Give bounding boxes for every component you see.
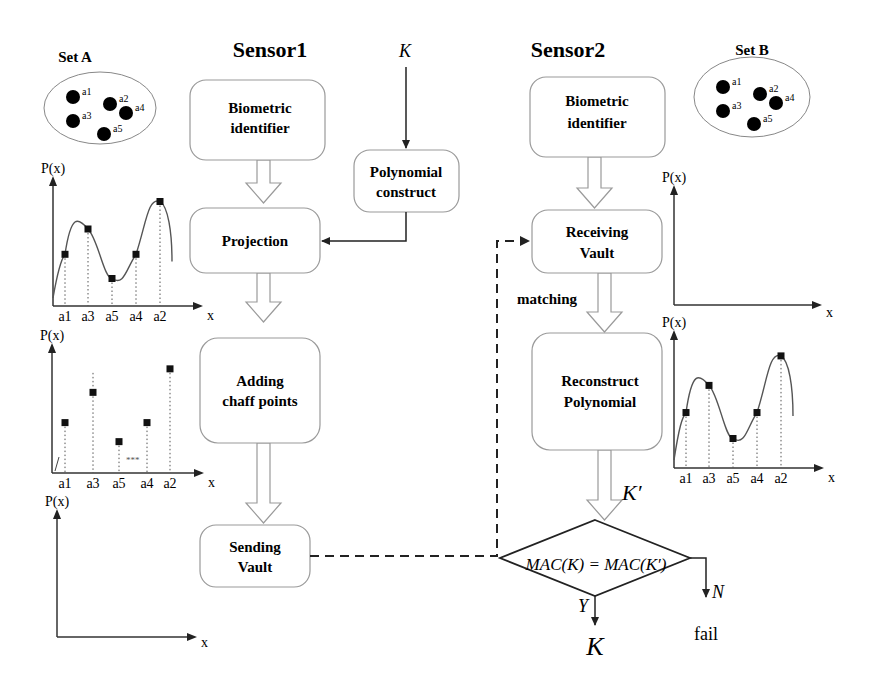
plot-a-vault-tick-label: a2 (163, 476, 176, 491)
box-label-line: identifier (230, 120, 289, 136)
set-a-element-label: a3 (82, 110, 91, 121)
set-b-element-dot (716, 104, 730, 118)
plot-a-polynomial-x-arrowhead (193, 302, 203, 310)
set-a-element-label: a1 (82, 86, 91, 97)
plot-a-vault-tick-label: a1 (58, 476, 71, 491)
box-label-line: Polynomial (370, 164, 443, 180)
biometric-identifier-box-2[interactable]: Biometric identifier (530, 77, 665, 157)
set-b-ellipse: a1a2a3a4a5 (694, 57, 810, 137)
plot-b-polynomial-tick-label: a5 (726, 471, 739, 486)
set-b-element-label: a1 (732, 76, 741, 87)
set-a-element-label: a5 (113, 123, 122, 134)
flow-arrow-2 (246, 273, 281, 322)
box-label-line: Adding (236, 373, 284, 389)
matching-label: matching (517, 291, 578, 307)
set-a-element-dot (66, 90, 80, 104)
set-b-element-dot (747, 117, 761, 131)
plot-b-polynomial-tick-label: a2 (774, 471, 787, 486)
plot-a-polynomial-data-point (85, 226, 92, 233)
set-b-title: Set B (735, 42, 769, 58)
receiving-vault-box[interactable]: Receiving Vault (532, 210, 662, 273)
set-b-element-dot (716, 80, 730, 94)
plot-a-empty-y-arrowhead (53, 509, 61, 519)
plots-group: P(x)xa1a3a5a4a2P(x)xa1a3a5a4a2P(x)x***a1… (40, 161, 835, 650)
plot-b-polynomial-data-point (754, 409, 761, 416)
plot-b-polynomial-data-point (778, 352, 785, 359)
plot-a-vault-chaff-marker: *** (126, 455, 140, 465)
no-branch-arrow (690, 558, 706, 597)
set-b-element-label: a5 (763, 113, 772, 124)
biometric-identifier-box-1[interactable]: Biometric identifier (190, 80, 325, 160)
plot-a-polynomial-data-point (157, 198, 164, 205)
box-label-line: Sending (229, 539, 281, 555)
plot-b-polynomial-y-arrowhead (670, 330, 678, 340)
plot-b-polynomial-x-arrowhead (814, 464, 824, 472)
mac-condition-text: MAC(K) = MAC(K′) (525, 555, 667, 574)
sensor2-title: Sensor2 (531, 37, 606, 62)
set-a-element-dot (66, 114, 80, 128)
plot-b-polynomial-tick-label: a3 (702, 471, 715, 486)
plot-a-vault-x-label: x (208, 475, 215, 490)
plot-b-polynomial-tick-label: a4 (750, 471, 763, 486)
plot-a-vault-tick-label: a5 (112, 476, 125, 491)
box-label-line: Reconstruct (561, 373, 638, 389)
yes-label: Y (578, 596, 590, 616)
set-a-element-dot (97, 127, 111, 141)
plot-b-empty-x-label: x (826, 305, 833, 320)
k-prime-label: K′ (621, 480, 643, 505)
flow-arrow-5 (587, 273, 622, 332)
fail-output: fail (694, 624, 718, 644)
plot-b-polynomial-tick-label: a1 (679, 471, 692, 486)
plot-b-polynomial-x-label: x (828, 470, 835, 485)
plot-a-vault-y-label: P(x) (40, 328, 64, 344)
set-b-element-dot (753, 87, 767, 101)
plot-a-polynomial-tick-label: a1 (58, 309, 71, 324)
vault-transfer-link (310, 241, 520, 556)
box-label-line: Vault (580, 245, 614, 261)
plot-a-polynomial-y-label: P(x) (41, 161, 65, 177)
projection-box[interactable]: Projection (190, 208, 320, 273)
set-b-element-dot (769, 96, 783, 110)
plot-a-empty-y-label: P(x) (45, 494, 69, 510)
flow-arrow-4 (577, 157, 612, 208)
box-label-line: Vault (238, 559, 272, 575)
plot-a-vault-vault-point (167, 365, 174, 372)
plot-b-empty-x-arrowhead (812, 301, 822, 309)
box-label-line: Polynomial (564, 394, 637, 410)
fuzzy-vault-diagram: Set A Sensor1 Sensor2 Set B a1a2a3a4a5 a… (0, 0, 869, 690)
set-b-element-label: a4 (785, 92, 794, 103)
set-a-ellipse: a1a2a3a4a5 (44, 72, 156, 144)
set-b-element-label: a2 (769, 83, 778, 94)
polynomial-to-projection-arrow (322, 212, 406, 241)
plot-a-polynomial-y-arrowhead (49, 176, 57, 186)
plot-a-vault-vault-point (144, 419, 151, 426)
set-a-element-label: a4 (135, 102, 144, 113)
mac-decision-diamond: MAC(K) = MAC(K′) (500, 520, 690, 596)
vault-transfer-arrowhead (520, 236, 530, 246)
box-label-line: identifier (567, 115, 626, 131)
flow-arrow-6 (587, 450, 622, 520)
plot-a-vault-x-arrowhead (194, 469, 204, 477)
plot-b-polynomial-data-point (683, 409, 690, 416)
sending-vault-box[interactable]: Sending Vault (200, 525, 310, 587)
box-label-line: Projection (222, 233, 289, 249)
plot-a-vault-vault-point (116, 438, 123, 445)
reconstruct-polynomial-box[interactable]: Reconstruct Polynomial (532, 333, 662, 450)
key-k-label: K (398, 41, 412, 61)
box-label-line: Biometric (565, 93, 629, 109)
plot-b-polynomial-data-point (706, 382, 713, 389)
set-a-element-label: a2 (119, 93, 128, 104)
plot-a-polynomial-tick-label: a5 (105, 309, 118, 324)
plot-b-polynomial-polynomial-curve (674, 355, 793, 460)
adding-chaff-points-box[interactable]: Adding chaff points (200, 338, 320, 443)
plot-a-vault-vault-point (62, 419, 69, 426)
flow-arrow-3 (246, 443, 281, 523)
polynomial-construct-box[interactable]: Polynomial construct (354, 150, 459, 212)
plot-a-polynomial-data-point (109, 275, 116, 282)
plot-a-polynomial-data-point (133, 251, 140, 258)
sensor1-title: Sensor1 (233, 37, 308, 62)
plot-a-vault-tick-label: a3 (86, 476, 99, 491)
box-label-line: Biometric (228, 100, 292, 116)
plot-a-polynomial-tick-label: a4 (129, 309, 142, 324)
plot-a-empty-x-label: x (201, 635, 208, 650)
